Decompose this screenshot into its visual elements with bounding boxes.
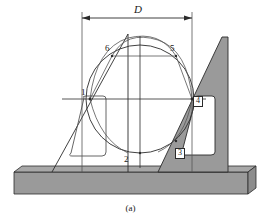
arc-lower-left [90,99,128,153]
point-label-4: 4 [193,96,203,107]
surface-plate-front-face [14,172,248,194]
point-marker-6 [111,55,113,57]
point-marker-1 [89,98,92,101]
point-marker-5 [175,55,177,57]
dimension-line-D [82,16,192,21]
chord-1-to-6 [90,56,112,99]
point-label-1: 1 [81,88,86,97]
point-label-3: 3 [175,148,185,159]
point-label-2: 2 [124,155,129,164]
figure-caption: (a) [0,203,261,213]
dimension-label-D: D [134,4,142,15]
dimension-arrow-right [184,16,192,21]
figure-container: D 1 2 3 4 5 6 (a) [0,0,261,224]
point-label-5: 5 [170,44,175,53]
point-marker-3 [175,140,177,142]
dimension-arrow-left [82,16,90,21]
technical-diagram [0,0,261,224]
left-square-tool [52,34,128,172]
left-square-hypotenuse [52,34,128,172]
chord-lines [90,56,192,99]
point-label-6: 6 [105,44,110,53]
point-marker-2 [139,152,141,154]
